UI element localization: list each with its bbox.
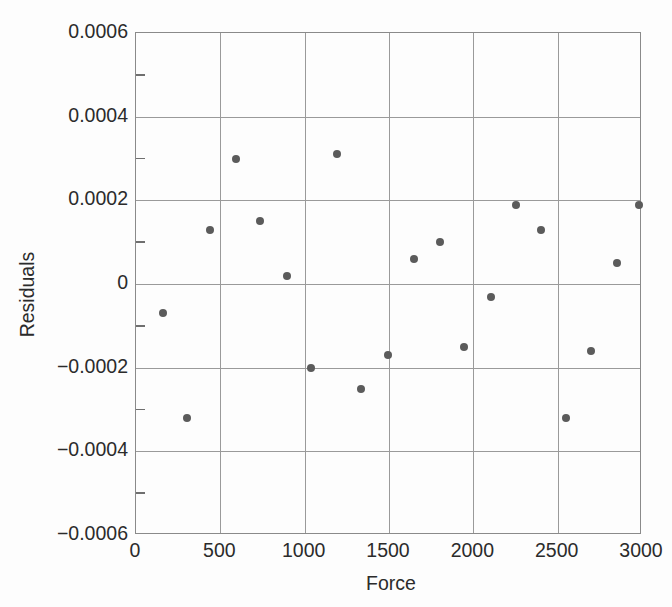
data-point [159, 309, 167, 317]
data-point [357, 385, 365, 393]
gridline-horizontal [136, 284, 640, 285]
y-axis-tick-label: 0.0002 [68, 190, 128, 210]
gridline-horizontal [136, 368, 640, 369]
x-axis-label-text: Force [366, 572, 416, 594]
x-axis-tick-label: 1000 [282, 541, 325, 561]
gridline-vertical [473, 33, 474, 533]
y-axis-tick-label: 0 [117, 273, 128, 293]
data-point [537, 226, 545, 234]
y-axis-minor-tick [136, 492, 145, 494]
data-point [183, 414, 191, 422]
data-point [256, 217, 264, 225]
data-point [283, 272, 291, 280]
gridline-vertical [558, 33, 559, 533]
y-axis-minor-tick [136, 158, 145, 160]
data-point [436, 238, 444, 246]
gridline-horizontal [136, 200, 640, 201]
y-axis-tick-label: −0.0006 [57, 524, 128, 544]
x-axis-tick-label: 0 [130, 541, 141, 561]
data-point [206, 226, 214, 234]
data-point [613, 259, 621, 267]
y-axis-minor-tick [136, 325, 145, 327]
scatter-plot-figure: −0.0006−0.0004−0.000200.00020.00040.0006… [0, 0, 672, 607]
gridline-vertical [220, 33, 221, 533]
plot-area [135, 32, 641, 534]
y-axis-tick-label: 0.0004 [68, 106, 128, 126]
gridline-vertical [305, 33, 306, 533]
data-point [384, 351, 392, 359]
data-point [487, 293, 495, 301]
gridline-vertical [389, 33, 390, 533]
y-axis-minor-tick [136, 74, 145, 76]
y-axis-tick-label: −0.0004 [57, 441, 128, 461]
data-point [512, 201, 520, 209]
x-axis-tick-label: 3000 [619, 541, 662, 561]
gridline-horizontal [136, 117, 640, 118]
y-axis-minor-tick [136, 241, 145, 243]
y-axis-tick-label: 0.0006 [68, 22, 128, 42]
x-axis-tick-label: 2500 [535, 541, 578, 561]
y-axis-tick-label: −0.0002 [57, 357, 128, 377]
x-axis-tick-label: 2000 [451, 541, 494, 561]
data-point [587, 347, 595, 355]
data-point [562, 414, 570, 422]
x-axis-tick-label: 1500 [366, 541, 409, 561]
x-axis-tick-label: 500 [203, 541, 236, 561]
data-point [635, 201, 643, 209]
gridline-horizontal [136, 451, 640, 452]
data-point [307, 364, 315, 372]
data-point [232, 155, 240, 163]
y-axis-label: Residuals [16, 205, 39, 385]
data-point [460, 343, 468, 351]
data-point [333, 150, 341, 158]
y-axis-minor-tick [136, 409, 145, 411]
x-axis-label: Force [0, 572, 672, 595]
data-point [410, 255, 418, 263]
